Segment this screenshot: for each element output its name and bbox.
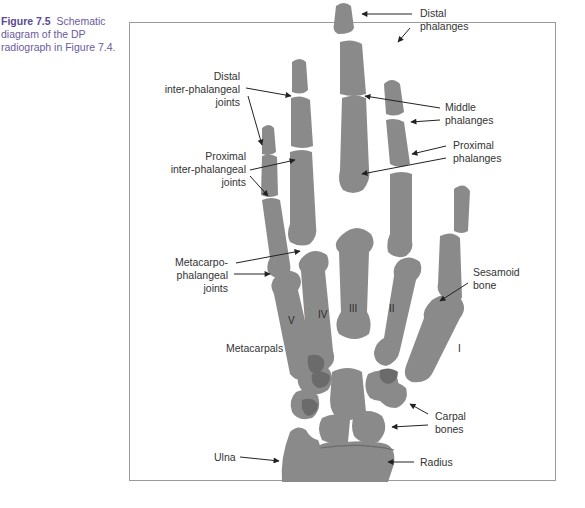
svg-text:Carpal: Carpal (435, 410, 466, 422)
svg-text:Sesamoid: Sesamoid (473, 266, 520, 278)
svg-text:phalanges: phalanges (453, 152, 501, 164)
svg-text:joints: joints (214, 96, 240, 108)
svg-text:joints: joints (220, 176, 246, 188)
svg-text:Proximal: Proximal (453, 139, 494, 151)
svg-text:Ulna: Ulna (214, 451, 236, 463)
label-radius: Radius (388, 456, 453, 468)
svg-text:Radius: Radius (420, 456, 453, 468)
svg-text:Distal: Distal (214, 70, 240, 82)
svg-text:Proximal: Proximal (205, 150, 246, 162)
svg-text:phalanges: phalanges (420, 20, 468, 32)
label-ulna: Ulna (214, 451, 279, 463)
svg-text:inter-phalangeal: inter-phalangeal (171, 163, 246, 175)
label-distal-phalanges: Distal phalanges (362, 7, 468, 42)
numeral-ii: II (389, 303, 395, 314)
svg-text:bone: bone (473, 279, 497, 291)
numeral-i: I (458, 343, 461, 354)
label-proximal-phalanges: Proximal phalanges (362, 139, 501, 174)
svg-text:inter-phalangeal: inter-phalangeal (165, 83, 240, 95)
label-metacarpals: Metacarpals (226, 342, 283, 354)
svg-text:Middle: Middle (445, 101, 476, 113)
svg-text:bones: bones (435, 423, 464, 435)
svg-text:Distal: Distal (420, 7, 446, 19)
label-carpal-bones: Carpal bones (392, 404, 466, 435)
svg-text:phalangeal: phalangeal (177, 269, 228, 281)
hand-skeleton-diagram: I II III IV V Distal phalanges Distal in… (0, 0, 585, 508)
svg-text:Metacarpals: Metacarpals (226, 342, 283, 354)
numeral-iv: IV (318, 309, 328, 320)
svg-text:phalanges: phalanges (445, 114, 493, 126)
svg-text:joints: joints (202, 282, 228, 294)
numeral-v: V (288, 315, 295, 326)
numeral-iii: III (349, 303, 357, 314)
label-middle-phalanges: Middle phalanges (365, 96, 493, 126)
svg-text:Metacarpo-: Metacarpo- (175, 256, 229, 268)
